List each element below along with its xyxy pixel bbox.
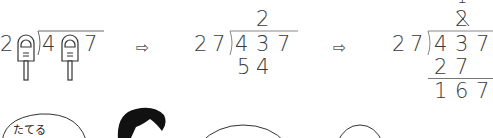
character-face-icon: [116, 105, 171, 138]
speech-bubble: [335, 123, 385, 138]
bubble-label: たてる: [13, 121, 46, 137]
divisor-digit: 2: [392, 33, 405, 55]
dividend-digit: 3: [455, 33, 468, 55]
remainder-digit: 7: [476, 80, 489, 102]
arrow-right-icon: ⇨: [136, 38, 149, 57]
divisor-digit: 2: [194, 33, 207, 55]
remainder-digit: 1: [434, 80, 447, 102]
divisor-digit: 2: [0, 33, 13, 55]
dividend-digit: 4: [434, 33, 447, 55]
dividend-digit: 4: [42, 33, 55, 55]
divisor-digit: 7: [410, 33, 423, 55]
product-digit: 7: [455, 56, 468, 78]
product-digit: 4: [256, 56, 269, 78]
dividend-digit: 4: [235, 33, 248, 55]
quotient-digit: 2: [256, 8, 269, 30]
arrow-right-icon: ⇨: [333, 38, 346, 57]
strike-icon: [455, 10, 471, 28]
divisor-digit: 7: [212, 33, 225, 55]
dividend-digit: 7: [84, 33, 97, 55]
finger-cover-icon: [16, 33, 36, 81]
product-digit: 5: [237, 56, 250, 78]
dividend-digit: 7: [476, 33, 489, 55]
remainder-digit: 6: [455, 80, 468, 102]
product-digit: 2: [434, 56, 447, 78]
speech-bubble: [198, 123, 288, 138]
finger-cover-icon: [60, 33, 80, 81]
dividend-digit: 7: [277, 33, 290, 55]
dividend-digit: 3: [256, 33, 269, 55]
